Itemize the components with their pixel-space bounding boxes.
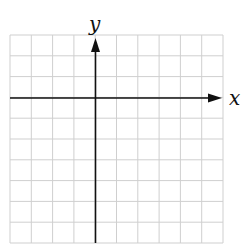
y-axis-label: y xyxy=(89,14,100,34)
grid-lines xyxy=(10,35,223,243)
coordinate-grid xyxy=(0,0,245,251)
x-axis-arrow-icon xyxy=(208,94,222,103)
y-axis-arrow-icon xyxy=(91,38,100,52)
x-axis-label: x xyxy=(229,88,240,108)
y-axis xyxy=(91,38,100,243)
